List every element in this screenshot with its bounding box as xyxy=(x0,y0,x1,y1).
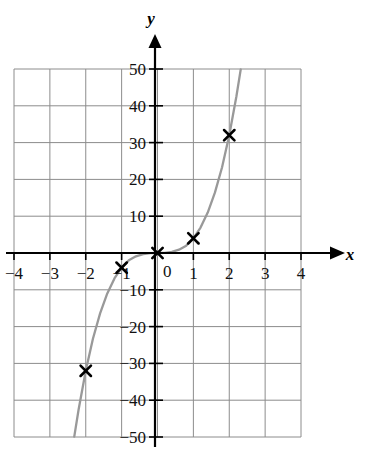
figure-background xyxy=(0,0,365,453)
y-tick-label--40: −40 xyxy=(119,391,146,410)
x-tick-label-1: 1 xyxy=(189,264,198,283)
y-tick-label-30: 30 xyxy=(129,134,146,153)
x-axis-label: x xyxy=(345,245,355,264)
y-tick-label--50: −50 xyxy=(119,428,146,447)
origin-label: 0 xyxy=(163,262,172,281)
y-tick-label-10: 10 xyxy=(129,207,146,226)
y-axis-label: y xyxy=(145,9,155,28)
x-tick-label--3: −3 xyxy=(41,264,59,283)
y-tick-label-20: 20 xyxy=(129,170,146,189)
graph-figure: −4−3−2−11234 5040302010−10−20−30−40−50 0… xyxy=(0,0,365,453)
y-tick-label-40: 40 xyxy=(129,97,146,116)
y-tick-label--30: −30 xyxy=(119,354,146,373)
y-tick-label--20: −20 xyxy=(119,318,146,337)
y-tick-label--10: −10 xyxy=(119,281,146,300)
x-tick-label-2: 2 xyxy=(225,264,234,283)
x-tick-label-3: 3 xyxy=(261,264,270,283)
x-tick-label-4: 4 xyxy=(297,264,306,283)
y-tick-label-50: 50 xyxy=(129,60,146,79)
x-tick-label--2: −2 xyxy=(77,264,95,283)
x-tick-label--4: −4 xyxy=(5,264,24,283)
